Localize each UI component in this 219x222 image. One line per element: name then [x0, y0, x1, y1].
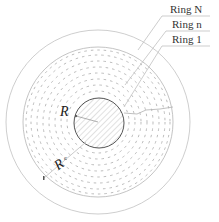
core-radius-label: R — [59, 104, 69, 119]
core-radius-tick — [75, 115, 77, 117]
outer-radius-tick — [43, 176, 45, 180]
label-ring-n: Ring n — [172, 18, 202, 30]
radial-line — [124, 107, 173, 114]
label-ring-1: Ring 1 — [172, 33, 202, 45]
hatched-core — [74, 98, 124, 148]
label-ring-N: Ring N — [170, 3, 202, 15]
leader-ring-1 — [124, 46, 210, 107]
outer-radius-subscript: c — [64, 155, 67, 161]
ring-diagram: Ring N Ring n Ring 1 R R c — [0, 0, 219, 222]
